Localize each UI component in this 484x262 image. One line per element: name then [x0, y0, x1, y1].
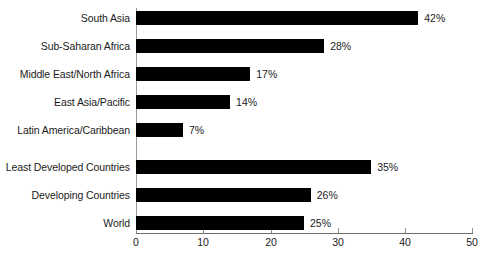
- bar-sub-saharan-africa: [136, 39, 324, 53]
- category-label-sub-saharan-africa: Sub-Saharan Africa: [0, 40, 130, 52]
- bar-south-asia: [136, 11, 418, 25]
- bar-east-asia-pacific: [136, 95, 230, 109]
- x-tick-label-0: 0: [133, 236, 139, 249]
- category-label-south-asia: South Asia: [0, 12, 130, 24]
- x-tick-label-30: 30: [332, 236, 344, 249]
- category-label-world: World: [0, 217, 130, 229]
- x-tick-label-20: 20: [265, 236, 277, 249]
- x-tick-50: [472, 228, 473, 233]
- category-label-east-asia-pacific: East Asia/Pacific: [0, 96, 130, 108]
- bar-value-latin-america-caribbean: 7%: [189, 123, 204, 137]
- category-label-latin-america-caribbean: Latin America/Caribbean: [0, 124, 130, 136]
- category-label-least-developed-countries: Least Developed Countries: [0, 161, 130, 173]
- bar-value-world: 25%: [310, 216, 331, 230]
- bar-middle-east-north-africa: [136, 67, 250, 81]
- bar-developing-countries: [136, 188, 311, 202]
- plot-area: 42% 28% 17% 14% 7% 35% 26% 25%: [136, 0, 472, 233]
- bar-value-sub-saharan-africa: 28%: [330, 39, 351, 53]
- category-label-middle-east-north-africa: Middle East/North Africa: [0, 68, 130, 80]
- category-label-developing-countries: Developing Countries: [0, 189, 130, 201]
- x-tick-label-50: 50: [466, 236, 478, 249]
- bar-value-south-asia: 42%: [424, 11, 445, 25]
- bar-latin-america-caribbean: [136, 123, 183, 137]
- x-tick-label-10: 10: [197, 236, 209, 249]
- bar-value-middle-east-north-africa: 17%: [256, 67, 277, 81]
- bar-value-developing-countries: 26%: [317, 188, 338, 202]
- bar-least-developed-countries: [136, 160, 371, 174]
- x-tick-label-40: 40: [399, 236, 411, 249]
- bar-value-least-developed-countries: 35%: [377, 160, 398, 174]
- bar-world: [136, 216, 304, 230]
- bar-chart: South Asia Sub-Saharan Africa Middle Eas…: [0, 0, 484, 262]
- bar-value-east-asia-pacific: 14%: [236, 95, 257, 109]
- x-axis-line: [136, 233, 473, 234]
